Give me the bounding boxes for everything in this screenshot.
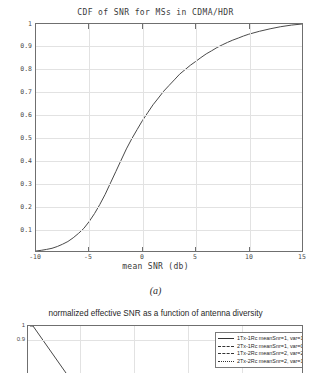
x-axis-tick-label: 15: [290, 253, 314, 261]
gridline-horizontal: [36, 69, 302, 70]
legend-item: 2Tx-2Rc meanSnr=2, var=1: [218, 358, 303, 366]
figure-caption-a: (a): [0, 285, 311, 296]
figure-a-title: CDF of SNR for MSs in CDMA/HDR: [0, 8, 311, 17]
legend-line-swatch-dashed: [218, 343, 234, 350]
figure-a-plot-area: [35, 23, 303, 252]
gridline-horizontal: [36, 46, 302, 47]
y-axis-tick-label: 0.7: [2, 88, 32, 96]
gridline-vertical: [134, 326, 135, 373]
legend-label: 2Tx-1Rc meanSnr=1, var=0.5: [237, 343, 303, 351]
x-axis-tick-mark: [249, 247, 250, 252]
legend-item: 1Tx-2Rc meanSnr=2, var=2: [218, 350, 303, 358]
legend-line-swatch-dashdot: [218, 350, 234, 357]
gridline-vertical: [80, 326, 81, 373]
y-axis-tick-label: 0.4: [2, 157, 32, 165]
gridline-horizontal: [36, 138, 302, 139]
gridline-vertical: [250, 24, 251, 251]
y-axis-tick-label: 0.8: [2, 65, 32, 73]
legend-label: 1Tx-1Rc meanSnr=1, var=1: [237, 335, 303, 343]
y-axis-tick-label: 0.2: [2, 203, 32, 211]
gridline-vertical: [196, 24, 197, 251]
figure-b-antenna-diversity-plot: normalized effective SNR as a function o…: [0, 300, 311, 369]
legend-item: 1Tx-1Rc meanSnr=1, var=1: [218, 335, 303, 343]
gridline-horizontal: [36, 184, 302, 185]
legend-label: 1Tx-2Rc meanSnr=2, var=2: [237, 350, 303, 358]
x-axis-tick-mark: [35, 247, 36, 252]
x-axis-tick-mark: [195, 247, 196, 252]
x-axis-label: mean SNR (db): [0, 262, 311, 271]
x-axis-tick-label: 10: [237, 253, 261, 261]
gridline-horizontal: [36, 230, 302, 231]
y-axis-tick-label: 1: [2, 20, 32, 28]
legend-label: 2Tx-2Rc meanSnr=2, var=1: [237, 358, 303, 366]
gridline-vertical: [89, 24, 90, 251]
gridline-vertical: [188, 326, 189, 373]
y-axis-tick-label: 0.5: [2, 134, 32, 142]
gridline-vertical: [143, 24, 144, 251]
figure-b-plot-area: 1Tx-1Rc meanSnr=1, var=1 2Tx-1Rc meanSnr…: [27, 325, 303, 373]
legend-line-swatch-solid: [218, 335, 234, 342]
x-axis-tick-label: -5: [76, 253, 100, 261]
gridline-horizontal: [36, 207, 302, 208]
gridline-horizontal: [36, 115, 302, 116]
legend-line-swatch-dotted: [218, 358, 234, 365]
x-axis-tick-label: 5: [183, 253, 207, 261]
x-axis-tick-mark: [88, 247, 89, 252]
x-axis-tick-mark-top: [142, 24, 143, 29]
y-axis-tick-label: 0.9: [2, 42, 32, 50]
series-1tx-1rc-path: [30, 326, 66, 373]
x-axis-tick-mark-top: [249, 24, 250, 29]
gridline-horizontal: [36, 161, 302, 162]
x-axis-tick-mark-top: [195, 24, 196, 29]
x-axis-tick-mark: [142, 247, 143, 252]
x-axis-tick-mark-top: [88, 24, 89, 29]
y-axis-tick-label: 0.6: [2, 111, 32, 119]
gridline-horizontal: [36, 92, 302, 93]
y-axis-tick-label: 0.1: [2, 226, 32, 234]
y-axis-tick-label: 0.3: [2, 180, 32, 188]
figure-b-title: normalized effective SNR as a function o…: [0, 309, 311, 318]
y-axis-tick-label: 0.9: [3, 336, 25, 342]
figure-b-legend: 1Tx-1Rc meanSnr=1, var=1 2Tx-1Rc meanSnr…: [215, 332, 303, 368]
legend-item: 2Tx-1Rc meanSnr=1, var=0.5: [218, 343, 303, 351]
x-axis-tick-mark: [302, 247, 303, 252]
y-axis-tick-label: 1: [3, 322, 25, 328]
figure-a-cdf-plot: CDF of SNR for MSs in CDMA/HDR 1 0.9 0.8…: [0, 0, 311, 300]
x-axis-tick-label: 0: [130, 253, 154, 261]
x-axis-tick-label: -10: [23, 253, 47, 261]
